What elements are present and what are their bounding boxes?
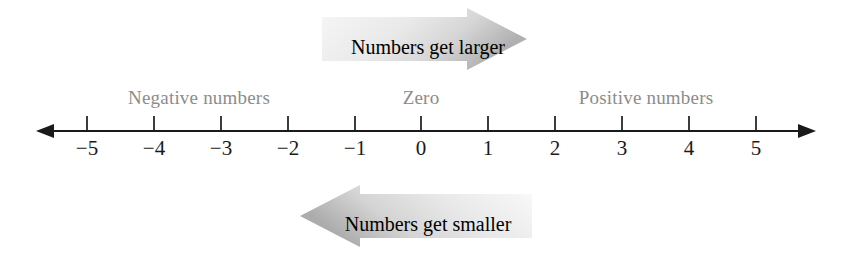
tick-marks (87, 116, 756, 131)
tick-label: −4 (143, 138, 165, 159)
number-line-diagram: Negative numbers Zero Positive numbers (0, 0, 854, 257)
axis-arrowhead-right (798, 124, 816, 138)
numbers-get-smaller-arrow: Numbers get smaller (300, 185, 532, 247)
numbers-get-larger-arrow: Numbers get larger (322, 8, 527, 70)
axis-arrowhead-left (36, 124, 54, 138)
tick-label: 5 (751, 138, 762, 159)
tick-label: 3 (617, 138, 628, 159)
tick-label: 4 (684, 138, 695, 159)
tick-label: −3 (210, 138, 232, 159)
numbers-get-larger-label: Numbers get larger (351, 37, 505, 57)
numbers-get-smaller-label: Numbers get smaller (345, 214, 512, 234)
tick-label: −5 (76, 138, 98, 159)
tick-label: 2 (550, 138, 561, 159)
tick-label: −1 (344, 138, 366, 159)
tick-label: 0 (416, 138, 427, 159)
tick-label: −2 (277, 138, 299, 159)
tick-label: 1 (483, 138, 494, 159)
